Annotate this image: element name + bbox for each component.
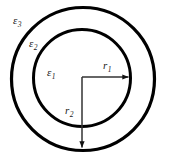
- r2-label: r2: [65, 104, 74, 119]
- r1-label: r1: [103, 59, 112, 74]
- epsilon-2-label: ε2: [29, 37, 38, 52]
- concentric-circles-diagram: ε3 ε2 ε1 r1 r2: [0, 0, 174, 163]
- figure-canvas: ε3 ε2 ε1 r1 r2: [0, 0, 174, 163]
- epsilon-3-label: ε3: [13, 14, 22, 29]
- epsilon-1-label: ε1: [47, 66, 56, 81]
